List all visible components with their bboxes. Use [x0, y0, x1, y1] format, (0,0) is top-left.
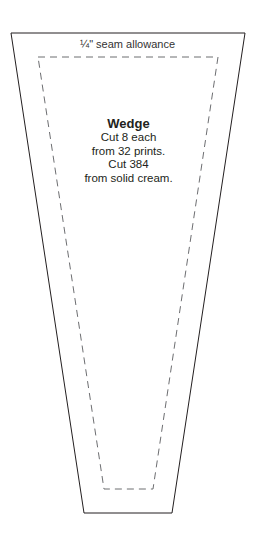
- cutting-line: [11, 33, 245, 513]
- seam-allowance-label: ¼" seam allowance: [0, 38, 255, 50]
- instruction-line: Cut 384: [0, 158, 255, 172]
- wedge-template-drawing: [0, 0, 255, 535]
- instruction-line: from solid cream.: [0, 172, 255, 186]
- instruction-line: Cut 8 each: [0, 131, 255, 145]
- piece-info: Wedge Cut 8 each from 32 prints. Cut 384…: [0, 116, 255, 185]
- instruction-line: from 32 prints.: [0, 145, 255, 159]
- piece-name: Wedge: [0, 116, 255, 131]
